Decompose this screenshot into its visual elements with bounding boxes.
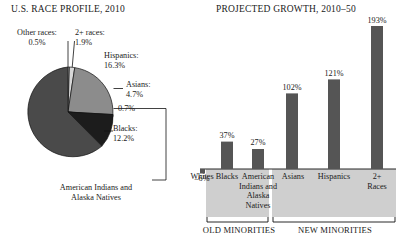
bar-chart-panel: PROJECTED GROWTH, 2010–50 –6% 37% 27% 10… xyxy=(200,0,402,250)
bar-value-american-indians: 27% xyxy=(242,138,274,147)
pie-label-two-plus-races: 2+ races: 1.9% xyxy=(75,28,133,48)
bar-blacks xyxy=(221,142,233,169)
pie-chart-panel: U.S. RACE PROFILE, 2010 Other races: 0.5… xyxy=(0,0,200,250)
pie-label-american-indians-value: 0.7% xyxy=(118,104,148,114)
pie-label-asians-name: Asians: xyxy=(126,80,170,90)
bracket-new-minorities xyxy=(273,217,395,222)
pie-label-other-races-name: Other races: xyxy=(6,28,68,38)
pie-label-hispanics-name: Hispanics: xyxy=(104,51,162,61)
leader-line-american-indians xyxy=(114,109,167,181)
bar-hispanics xyxy=(328,79,340,169)
bar-two-plus-races xyxy=(371,26,383,169)
bar-value-two-plus-races: 193% xyxy=(357,16,397,25)
pie-label-asians: Asians: 4.7% xyxy=(126,80,170,100)
pie-label-hispanics-value: 16.3% xyxy=(104,61,162,71)
bar-value-hispanics: 121% xyxy=(314,69,354,78)
bar-american-indians xyxy=(252,149,264,169)
category-label-american-indians-line2: Indians and xyxy=(233,182,283,192)
pie-label-american-indians-line2: Alaska Natives xyxy=(28,193,164,203)
pie-label-two-plus-races-value: 1.9% xyxy=(75,38,133,48)
pie-label-other-races-value: 0.5% xyxy=(6,38,68,48)
bar-value-asians: 102% xyxy=(272,83,312,92)
group-label-new-minorities: NEW MINORITIES xyxy=(285,225,385,235)
category-label-hispanics: Hispanics xyxy=(311,172,357,182)
category-label-american-indians-line4: Natives xyxy=(233,201,283,211)
bracket-old-minorities xyxy=(207,217,268,222)
pie-label-blacks-value: 12.2% xyxy=(113,134,157,144)
pie-label-two-plus-races-name: 2+ races: xyxy=(75,28,133,38)
category-label-two-plus-races-line1: 2+ xyxy=(358,172,396,182)
pie-label-american-indians-line1: American Indians and xyxy=(28,183,164,193)
pie-label-asians-value: 4.7% xyxy=(126,90,170,100)
pie-label-hispanics: Hispanics: 16.3% xyxy=(104,51,162,71)
category-label-two-plus-races: 2+ Races xyxy=(358,172,396,191)
bar-asians xyxy=(286,93,298,169)
category-label-asians: Asians xyxy=(274,172,312,182)
category-label-asians-line1: Asians xyxy=(274,172,312,182)
pie-label-other-races: Other races: 0.5% xyxy=(6,28,68,48)
category-label-hispanics-line1: Hispanics xyxy=(311,172,357,182)
pie-label-american-indians-name: American Indians and Alaska Natives xyxy=(28,183,164,203)
pie-label-blacks: Blacks: 12.2% xyxy=(113,124,157,144)
projected-growth-bar-svg xyxy=(200,0,402,250)
group-label-old-minorities: OLD MINORITIES xyxy=(197,225,281,235)
bar-value-blacks: 37% xyxy=(211,131,243,140)
pie-label-blacks-name: Blacks: xyxy=(113,124,157,134)
category-label-american-indians-line3: Alaska xyxy=(233,191,283,201)
category-label-two-plus-races-line2: Races xyxy=(358,182,396,192)
